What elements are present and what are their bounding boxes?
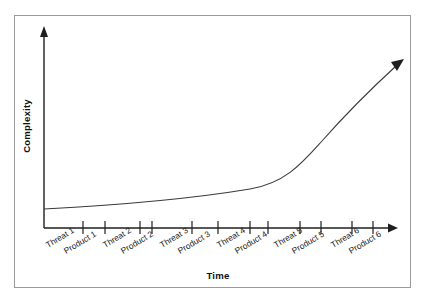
complexity-trend-curve	[44, 66, 396, 209]
plot-canvas: Threat 1 Product 1 Threat 2 Product 2 Th…	[0, 0, 424, 303]
x-axis-arrow-icon	[388, 224, 398, 233]
y-axis-arrow-icon	[40, 26, 48, 37]
y-axis-title: Complexity	[21, 99, 32, 153]
x-axis-title: Time	[206, 270, 229, 281]
x-tick-labels: Threat 1 Product 1 Threat 2 Product 2 Th…	[44, 225, 383, 256]
chart-figure: Threat 1 Product 1 Threat 2 Product 2 Th…	[0, 0, 424, 303]
y-axis	[40, 26, 48, 228]
